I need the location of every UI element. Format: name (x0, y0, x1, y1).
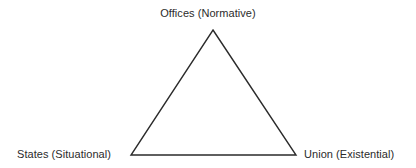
triangle-outline (131, 30, 296, 155)
vertex-label-union: Union (Existential) (304, 148, 394, 161)
vertex-label-states: States (Situational) (17, 148, 111, 161)
triangle-diagram: Offices (Normative) States (Situational)… (0, 0, 416, 168)
vertex-label-offices: Offices (Normative) (0, 7, 416, 20)
triangle-shape (0, 0, 416, 168)
